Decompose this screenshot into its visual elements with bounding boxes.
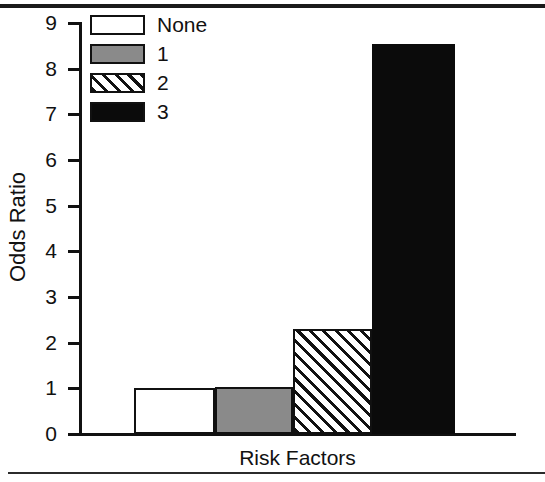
legend-swatch-black [90,102,145,122]
legend-swatch-gray [90,44,145,64]
bottom-divider-rule [8,472,545,474]
y-tick-mark [68,296,79,299]
y-tick-mark [68,387,79,390]
legend-item-3: 3 [90,99,207,124]
y-tick-mark [68,342,79,345]
legend-label: 3 [157,101,169,122]
legend-label: 1 [157,43,169,64]
y-tick-mark [68,113,79,116]
legend-label: None [157,14,207,35]
bar-1 [215,387,293,434]
legend-item-none: None [90,12,207,37]
top-divider-rule [0,4,545,8]
legend-item-2: 2 [90,70,207,95]
y-tick-mark [68,159,79,162]
y-tick-mark [68,68,79,71]
legend-swatch-diagonal-hatch [90,73,145,93]
legend: None123 [90,12,207,128]
bar-2 [293,329,372,434]
y-tick-label: 6 [35,149,57,170]
y-tick-label: 0 [35,423,57,444]
y-tick-mark [68,22,79,25]
y-axis-line [79,22,82,436]
y-tick-label: 8 [35,58,57,79]
y-tick-mark [68,433,79,436]
y-tick-label: 1 [35,377,57,398]
bar-3 [372,44,455,434]
y-tick-label: 7 [35,103,57,124]
legend-label: 2 [157,72,169,93]
y-tick-mark [68,205,79,208]
y-tick-label: 4 [35,240,57,261]
y-tick-mark [68,250,79,253]
bar-none [134,388,215,434]
x-axis-title: Risk Factors [79,446,516,470]
y-tick-label: 5 [35,195,57,216]
y-tick-label: 9 [35,12,57,33]
legend-item-1: 1 [90,41,207,66]
legend-swatch-white [90,15,145,35]
figure-chart: 0123456789 Odds Ratio Risk Factors None1… [0,0,545,482]
y-tick-label: 3 [35,286,57,307]
y-tick-label: 2 [35,332,57,353]
y-axis-title: Odds Ratio [5,147,31,307]
